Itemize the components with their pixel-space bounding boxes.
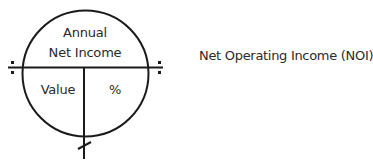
percent-label: % <box>109 83 121 97</box>
value-label: Value <box>41 83 76 97</box>
net-income-label: Net Income <box>49 46 122 60</box>
diagram-caption: Net Operating Income (NOI) <box>199 49 373 63</box>
annual-label: Annual <box>63 26 107 40</box>
